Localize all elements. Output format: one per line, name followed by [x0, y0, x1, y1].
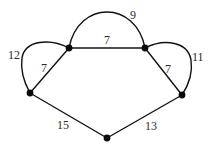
node-e — [104, 135, 111, 142]
weight-label-de: 13 — [145, 119, 157, 133]
node-b — [142, 45, 149, 52]
weight-label-bd-straight: 7 — [165, 62, 171, 76]
weight-label-ce: 15 — [57, 118, 69, 132]
node-a — [66, 45, 73, 52]
weight-label-bd-arc: 11 — [192, 50, 204, 64]
weight-label-ac-arc: 12 — [8, 48, 20, 62]
weight-label-ac-straight: 7 — [41, 61, 47, 75]
weight-label-ab-arc: 9 — [130, 8, 136, 22]
edge-b-d-straight — [145, 48, 182, 95]
node-d — [179, 92, 186, 99]
node-c — [27, 90, 34, 97]
graph-diagram: 9 7 12 7 11 7 15 13 — [0, 0, 208, 146]
edge-a-c-straight — [30, 48, 69, 93]
weight-label-ab-straight: 7 — [104, 33, 110, 47]
